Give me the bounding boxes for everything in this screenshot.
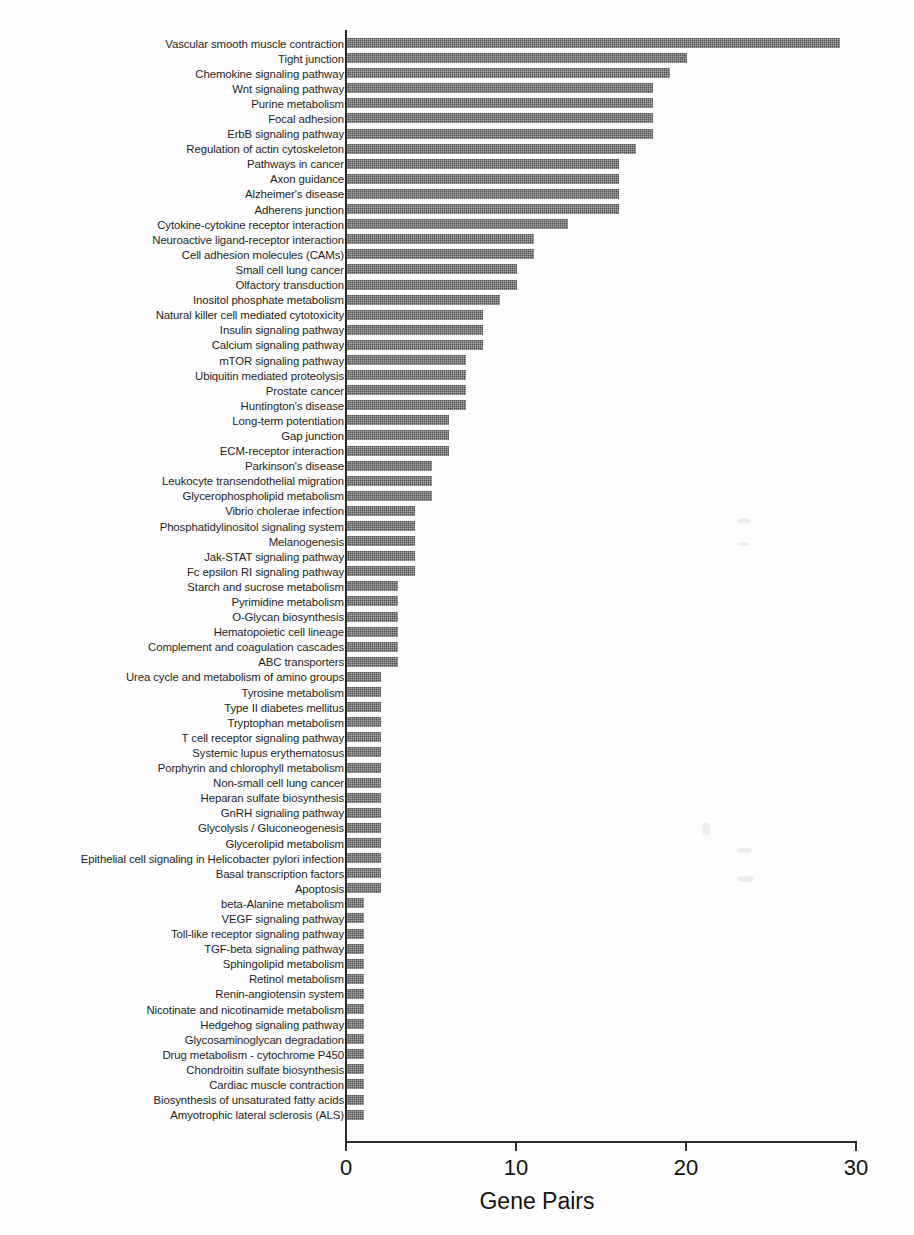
bar: [347, 325, 483, 335]
x-axis-tick-label: 0: [340, 1155, 352, 1181]
bar-category-label: TGF-beta signaling pathway: [204, 943, 344, 955]
bar-track: [347, 747, 381, 757]
bar-row: Olfactory transduction: [0, 278, 914, 293]
bar-row: Porphyrin and chlorophyll metabolism: [0, 761, 914, 776]
bar: [347, 687, 381, 697]
bar-row: Vibrio cholerae infection: [0, 504, 914, 519]
bar-row: Cytokine-cytokine receptor interaction: [0, 217, 914, 232]
bar-category-label: Small cell lung cancer: [235, 264, 344, 276]
bar-track: [347, 868, 381, 878]
bar: [347, 853, 381, 863]
bar-track: [347, 1004, 364, 1014]
bar-category-label: Heparan sulfate biosynthesis: [201, 792, 344, 804]
bar-track: [347, 38, 840, 48]
bar-row: Fc epsilon RI signaling pathway: [0, 564, 914, 579]
bar-track: [347, 340, 483, 350]
bar-row: Regulation of actin cytoskeleton: [0, 142, 914, 157]
bar-category-label: Sphingolipid metabolism: [223, 958, 344, 970]
bar-row: Retinol metabolism: [0, 972, 914, 987]
bar-category-label: GnRH signaling pathway: [221, 807, 344, 819]
bar-row: Natural killer cell mediated cytotoxicit…: [0, 308, 914, 323]
bar-category-label: Fc epsilon RI signaling pathway: [187, 566, 344, 578]
bar-track: [347, 370, 466, 380]
bar-category-label: Adherens junction: [255, 204, 345, 216]
bar-category-label: beta-Alanine metabolism: [221, 898, 344, 910]
bar-category-label: Tryptophan metabolism: [227, 717, 344, 729]
bar-track: [347, 129, 653, 139]
bar-category-label: Toll-like receptor signaling pathway: [171, 928, 344, 940]
bar-row: Tight junction: [0, 51, 914, 66]
bar-track: [347, 1095, 364, 1105]
bar-track: [347, 83, 653, 93]
bar-row: mTOR signaling pathway: [0, 353, 914, 368]
bar-track: [347, 385, 466, 395]
bar-category-label: Cytokine-cytokine receptor interaction: [157, 219, 344, 231]
bar-category-label: Pyrimidine metabolism: [232, 596, 344, 608]
bar-row: Focal adhesion: [0, 111, 914, 126]
bar-category-label: Tight junction: [278, 53, 344, 65]
bar-row: Tyrosine metabolism: [0, 685, 914, 700]
bar: [347, 672, 381, 682]
bar-track: [347, 98, 653, 108]
bar-row: Basal transcription factors: [0, 866, 914, 881]
bar-track: [347, 521, 415, 531]
bar: [347, 747, 381, 757]
plot-area: Vascular smooth muscle contractionTight …: [0, 0, 914, 1235]
bar-track: [347, 491, 432, 501]
bar-row: Sphingolipid metabolism: [0, 957, 914, 972]
bar-row: Systemic lupus erythematosus: [0, 745, 914, 760]
bar-row: Type II diabetes mellitus: [0, 700, 914, 715]
bar-category-label: Insulin signaling pathway: [220, 324, 344, 336]
bar-row: Long-term potentiation: [0, 413, 914, 428]
scan-artifact: [737, 518, 751, 523]
bar-track: [347, 159, 619, 169]
bar-row: Chondroitin sulfate biosynthesis: [0, 1062, 914, 1077]
bar: [347, 340, 483, 350]
bar: [347, 461, 432, 471]
bar: [347, 400, 466, 410]
bar-category-label: ErbB signaling pathway: [227, 128, 344, 140]
bar-category-label: ECM-receptor interaction: [220, 445, 344, 457]
bar-track: [347, 174, 619, 184]
bar: [347, 491, 432, 501]
bar: [347, 1004, 364, 1014]
bar: [347, 144, 636, 154]
bar-row: Cardiac muscle contraction: [0, 1077, 914, 1092]
bar-row: Complement and coagulation cascades: [0, 640, 914, 655]
scan-artifact: [737, 848, 752, 853]
bar: [347, 204, 619, 214]
bar-row: Tryptophan metabolism: [0, 715, 914, 730]
bar-category-label: VEGF signaling pathway: [221, 913, 344, 925]
bar-track: [347, 1079, 364, 1089]
bar-category-label: Porphyrin and chlorophyll metabolism: [158, 762, 344, 774]
bar-track: [347, 642, 398, 652]
scan-artifact: [737, 876, 754, 882]
bar-track: [347, 672, 381, 682]
bar-row: Neuroactive ligand-receptor interaction: [0, 232, 914, 247]
bar-row: Inositol phosphate metabolism: [0, 293, 914, 308]
bar-track: [347, 295, 500, 305]
bar: [347, 68, 670, 78]
bar-track: [347, 204, 619, 214]
bar: [347, 596, 398, 606]
bar: [347, 264, 517, 274]
bar: [347, 883, 381, 893]
bar-category-label: mTOR signaling pathway: [219, 355, 344, 367]
bar-track: [347, 1064, 364, 1074]
bar-category-label: Glycerophospholipid metabolism: [182, 490, 344, 502]
bar-category-label: Hedgehog signaling pathway: [200, 1019, 344, 1031]
bar-track: [347, 853, 381, 863]
x-axis-tick-label: 30: [844, 1155, 868, 1181]
bar-row: Nicotinate and nicotinamide metabolism: [0, 1002, 914, 1017]
bar-track: [347, 310, 483, 320]
bar-category-label: Chondroitin sulfate biosynthesis: [186, 1064, 344, 1076]
bar-category-label: Pathways in cancer: [247, 158, 344, 170]
bar: [347, 506, 415, 516]
bar-track: [347, 612, 398, 622]
bar: [347, 612, 398, 622]
bar-row: Starch and sucrose metabolism: [0, 579, 914, 594]
bar: [347, 763, 381, 773]
bar-row: Hedgehog signaling pathway: [0, 1017, 914, 1032]
bar: [347, 732, 381, 742]
bar-category-label: Systemic lupus erythematosus: [192, 747, 344, 759]
